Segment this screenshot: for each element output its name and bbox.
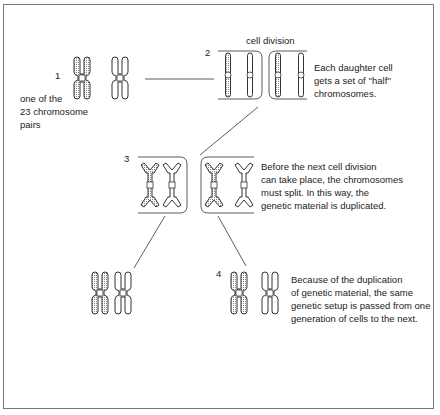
step-number-4: 4: [216, 268, 221, 279]
connector-line: [134, 216, 165, 268]
caption-line: Because of the duplication: [291, 273, 430, 286]
caption-line: must split. In this way, the: [261, 186, 403, 199]
caption-line: chromosomes.: [314, 87, 393, 100]
connector-line: [200, 107, 258, 155]
caption-line: genetic material is duplicated.: [261, 199, 403, 212]
connector-line: [218, 216, 246, 266]
caption-line: 23 chromosome: [20, 105, 88, 118]
caption-line: pairs: [20, 118, 88, 131]
step-2-caption: Each daughter cell gets a set of ''half'…: [314, 61, 393, 100]
caption-line: Each daughter cell: [314, 61, 393, 74]
step-number-3: 3: [124, 153, 129, 164]
plain-chromosome: [112, 57, 128, 99]
caption-line: gets a set of ''half'': [314, 74, 393, 87]
caption-line: one of the: [20, 92, 88, 105]
caption-line: genetic setup is passed from one: [291, 299, 430, 312]
figure-title: cell division: [246, 34, 295, 47]
step-4-caption: Because of the duplication of genetic ma…: [291, 273, 430, 325]
daughter-cells: [218, 51, 307, 99]
chromosome-pair-result-left: [92, 272, 131, 314]
split-chromosome-cells: [138, 157, 254, 213]
step-3-caption: Before the next cell division can take p…: [261, 160, 403, 212]
chromosome-pair-result-right: [231, 272, 278, 314]
caption-line: Before the next cell division: [261, 160, 403, 173]
caption-line: can take place, the chromosomes: [261, 173, 403, 186]
caption-line: of genetic material, the same: [291, 286, 430, 299]
caption-line: generation of cells to the next.: [291, 312, 430, 325]
step-number-1: 1: [55, 70, 60, 81]
step-1-caption: one of the 23 chromosome pairs: [20, 92, 88, 131]
step-number-2: 2: [205, 47, 210, 58]
